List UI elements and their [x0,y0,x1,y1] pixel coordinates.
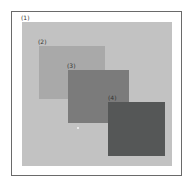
region-1-label: (1) [21,15,30,21]
region-4-box [108,102,165,156]
region-4-label: (4) [108,95,117,101]
region-2-label: (2) [38,39,47,45]
marker-dot [77,127,79,129]
region-3-label: (3) [67,63,76,69]
